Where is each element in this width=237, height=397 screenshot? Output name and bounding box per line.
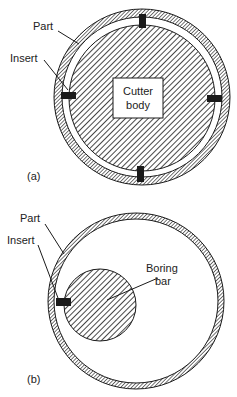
caption-b: (b) — [27, 373, 40, 385]
insert-bottom — [137, 166, 144, 182]
figure-a: Cutter body Part Insert (a) — [10, 9, 230, 185]
figure-b: Part Insert Boring bar (b) — [7, 212, 224, 389]
part-leader-b — [45, 224, 64, 254]
diagram-canvas: Cutter body Part Insert (a) Part Insert … — [0, 0, 237, 397]
insert-right — [207, 95, 222, 102]
insert-left — [61, 92, 76, 99]
insert-label-b: Insert — [7, 234, 35, 246]
insert-label-a: Insert — [10, 52, 38, 64]
part-leader-a — [58, 31, 79, 44]
boring-bar-label-2: bar — [155, 275, 171, 287]
insert-top — [139, 14, 146, 28]
part-label-b: Part — [20, 212, 40, 224]
boring-bar-label-1: Boring — [146, 262, 178, 274]
cutter-body-label-1: Cutter — [123, 85, 153, 97]
boring-bar — [64, 269, 136, 341]
insert-b — [56, 298, 71, 306]
caption-a: (a) — [27, 170, 40, 182]
cutter-body-label-2: body — [126, 99, 150, 111]
part-label-a: Part — [33, 20, 53, 32]
